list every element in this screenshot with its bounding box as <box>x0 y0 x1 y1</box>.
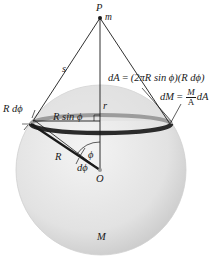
eq-dM-equals: = <box>174 91 185 102</box>
label-s: s <box>62 64 66 75</box>
eq-dA-equals: = <box>120 72 131 83</box>
eq-dA-lhs: dA <box>108 72 120 83</box>
label-R-dphi: R dϕ <box>3 104 23 115</box>
point-P-dot <box>98 16 102 20</box>
label-P: P <box>96 3 102 14</box>
shell-theorem-diagram: P m s r R sin ϕ R dϕ R ϕ dϕ O M dA = (2π… <box>0 0 216 257</box>
label-R: R <box>55 152 61 163</box>
label-r: r <box>103 101 107 112</box>
equation-dM: dM = MAdA <box>160 88 208 108</box>
point-O-dot <box>98 168 102 172</box>
label-m: m <box>105 13 112 23</box>
eq-dA-rhs: (2πR sin ϕ)(R dϕ) <box>131 72 205 83</box>
label-O: O <box>96 174 104 185</box>
label-dphi: dϕ <box>77 163 88 174</box>
label-phi: ϕ <box>88 150 93 161</box>
diagram-canvas <box>0 0 216 257</box>
eq-dM-lhs: dM <box>160 91 174 102</box>
label-ring-radius: R sin ϕ <box>53 112 82 123</box>
equation-dA: dA = (2πR sin ϕ)(R dϕ) <box>108 73 204 84</box>
eq-dM-fraction: MA <box>186 88 196 108</box>
label-M: M <box>97 232 106 243</box>
eq-dM-tail: dA <box>197 91 209 102</box>
eq-dM-denominator: A <box>186 98 196 107</box>
